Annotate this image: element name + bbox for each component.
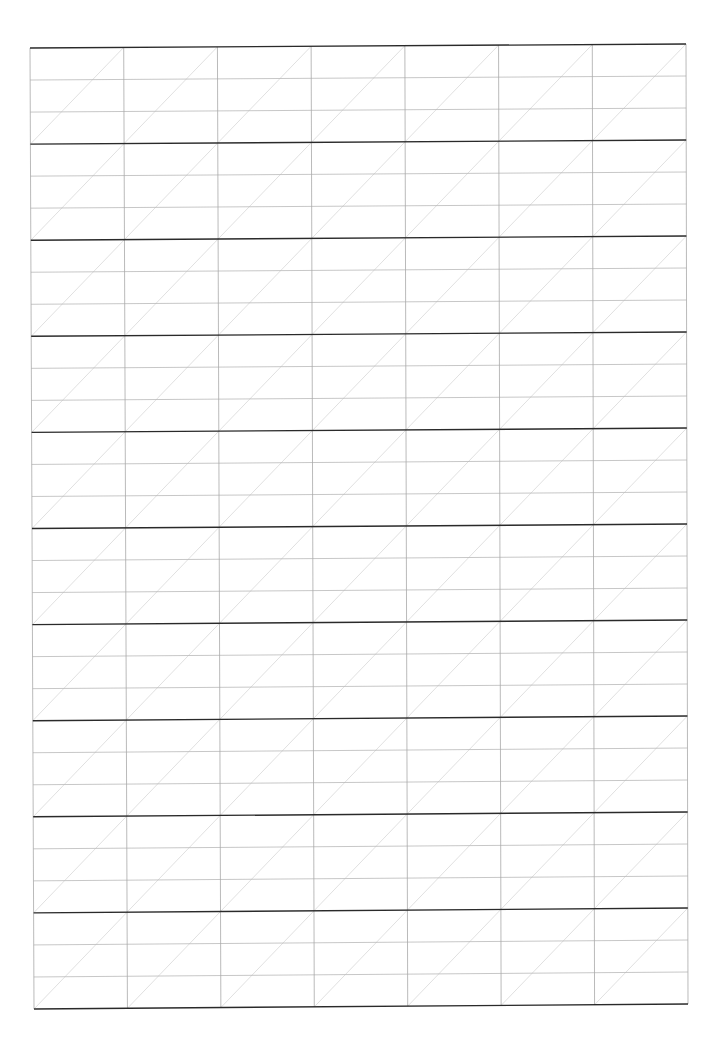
diagonal-guide-line — [500, 429, 593, 526]
diagonal-guide-line — [311, 46, 404, 143]
diagonal-guide-line — [221, 815, 314, 912]
diagonal-guide-line — [500, 525, 593, 622]
diagonal-guide-line — [221, 911, 314, 1008]
diagonal-guide-line — [594, 620, 687, 717]
diagonal-guide-line — [407, 621, 500, 718]
diagonal-guide-line — [499, 237, 592, 334]
diagonal-guide-line — [32, 432, 125, 529]
band-line — [34, 908, 688, 913]
diagonal-guide-line — [407, 813, 500, 910]
diagonal-guide-line — [127, 815, 220, 912]
diagonal-guide-line — [126, 527, 219, 624]
diagonal-guide-line — [32, 528, 125, 625]
band-line — [33, 812, 687, 817]
subdivision-line — [31, 300, 686, 304]
diagonal-guide-line — [313, 526, 406, 623]
subdivision-line — [31, 172, 687, 176]
diagonal-guide-line — [312, 238, 405, 335]
diagonal-guide-line — [500, 621, 593, 718]
band-line — [33, 716, 688, 721]
diagonal-guide-line — [312, 334, 405, 431]
diagonal-guide-line — [593, 428, 686, 525]
diagonal-guide-line — [126, 431, 219, 528]
diagonal-guide-line — [219, 527, 312, 624]
diagonal-guide-line — [408, 909, 501, 1006]
diagonal-guide-line — [31, 240, 124, 337]
diagonal-guide-line — [127, 719, 220, 816]
diagonal-guide-line — [218, 238, 311, 335]
handwriting-grid — [0, 0, 720, 1046]
diagonal-guide-line — [125, 335, 218, 432]
diagonal-guide-line — [124, 143, 217, 240]
subdivision-line — [33, 844, 687, 849]
diagonal-guide-line — [32, 336, 125, 433]
subdivision-line — [32, 492, 687, 496]
diagonal-guide-line — [31, 144, 124, 241]
diagonal-guide-line — [405, 141, 498, 238]
subdivision-line — [30, 108, 686, 112]
subdivision-line — [31, 364, 686, 368]
diagonal-guide-line — [220, 623, 313, 720]
diagonal-guide-line — [406, 333, 499, 430]
diagonal-guide-line — [314, 814, 407, 911]
subdivision-line — [32, 588, 687, 593]
diagonal-guide-line — [125, 239, 218, 336]
diagonal-guide-line — [219, 431, 312, 528]
diagonal-guide-line — [127, 912, 220, 1009]
subdivision-line — [31, 204, 687, 208]
diagonal-guide-line — [595, 908, 688, 1005]
diagonal-guide-line — [593, 236, 686, 333]
diagonal-guide-line — [314, 718, 407, 815]
subdivision-line — [34, 972, 688, 977]
diagonal-guide-line — [594, 524, 687, 621]
subdivision-line — [32, 460, 687, 464]
diagonal-guide-line — [34, 816, 127, 913]
band-line — [30, 44, 686, 48]
subdivision-line — [31, 396, 686, 400]
subdivision-line — [33, 780, 687, 785]
band-line — [32, 524, 687, 529]
subdivision-line — [33, 652, 688, 657]
subdivision-line — [33, 684, 688, 689]
band-line — [31, 236, 687, 240]
diagonal-guide-line — [313, 622, 406, 719]
diagonal-guide-line — [314, 910, 407, 1007]
diagonal-guide-line — [30, 47, 123, 144]
band-line — [31, 332, 686, 336]
diagonal-guide-line — [124, 47, 217, 144]
diagonal-guide-line — [313, 430, 406, 527]
subdivision-line — [33, 876, 687, 881]
diagonal-guide-line — [499, 141, 592, 238]
diagonal-guide-line — [593, 44, 686, 141]
diagonal-guide-line — [405, 45, 498, 142]
diagonal-guide-line — [501, 813, 594, 910]
band-line — [30, 140, 686, 144]
diagonal-guide-line — [407, 717, 500, 814]
subdivision-line — [30, 76, 686, 80]
diagonal-guide-line — [33, 624, 126, 721]
subdivision-line — [33, 748, 688, 753]
subdivision-line — [32, 556, 687, 561]
subdivision-line — [34, 940, 688, 945]
band-line — [34, 1004, 688, 1009]
diagonal-guide-line — [594, 812, 687, 909]
diagonal-guide-line — [407, 525, 500, 622]
practice-sheet — [0, 0, 720, 1046]
diagonal-guide-line — [220, 719, 313, 816]
diagonal-guide-line — [218, 142, 311, 239]
diagonal-guide-line — [593, 140, 686, 237]
diagonal-guide-line — [33, 720, 126, 817]
band-line — [32, 620, 687, 625]
subdivision-line — [31, 268, 687, 272]
diagonal-guide-line — [499, 45, 592, 142]
band-line — [32, 428, 687, 432]
diagonal-guide-line — [126, 623, 219, 720]
diagonal-guide-line — [501, 909, 594, 1006]
diagonal-guide-line — [406, 429, 499, 526]
diagonal-guide-line — [312, 142, 405, 239]
diagonal-guide-line — [34, 912, 127, 1009]
diagonal-guide-line — [406, 237, 499, 334]
diagonal-guide-line — [219, 334, 312, 431]
diagonal-guide-line — [501, 717, 594, 814]
diagonal-guide-line — [594, 716, 687, 813]
